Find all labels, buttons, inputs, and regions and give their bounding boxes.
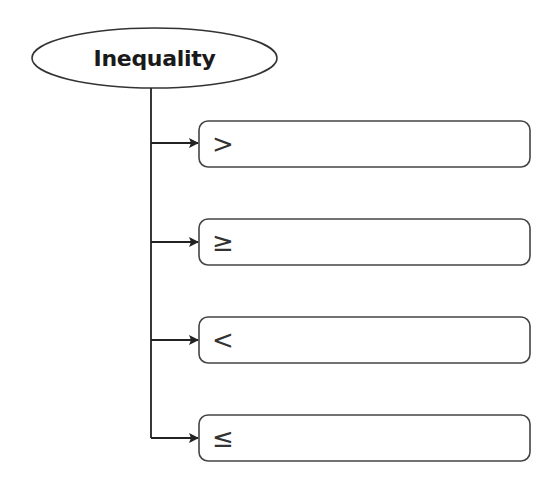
answer-blank-2[interactable]	[250, 224, 520, 260]
root-title: Inequality	[32, 28, 277, 88]
answer-blank-3[interactable]	[250, 322, 520, 358]
answer-blank-1[interactable]	[250, 126, 520, 162]
answer-blank-4[interactable]	[250, 420, 520, 456]
